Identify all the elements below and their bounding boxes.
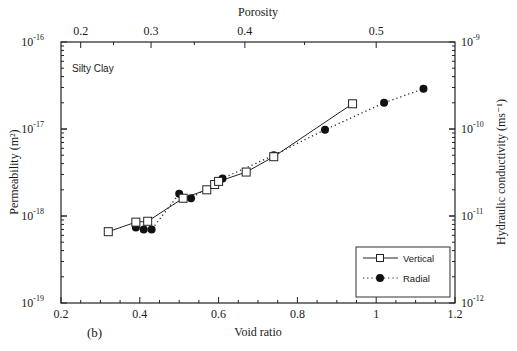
vertical-point — [179, 194, 187, 202]
y2-axis-title: Hydraulic conductivity (ms⁻¹) — [494, 99, 508, 245]
vertical-point — [203, 186, 211, 194]
x-tick-label: 0.4 — [132, 307, 147, 321]
radial-point — [148, 225, 156, 233]
panel-label: (b) — [87, 325, 102, 340]
x-tick-label: 0.2 — [54, 307, 69, 321]
vertical-point — [215, 177, 223, 185]
radial-point — [380, 99, 388, 107]
permeability-chart: 0.20.40.60.811.20.20.30.40.510-1910-1810… — [0, 0, 517, 351]
x-tick-label: 1 — [373, 307, 379, 321]
radial-point — [321, 126, 329, 134]
x-axis-title: Void ratio — [234, 325, 281, 339]
radial-point — [187, 194, 195, 202]
radial-point — [419, 85, 427, 93]
legend-square-marker-icon — [377, 255, 384, 262]
x2-tick-label: 0.2 — [73, 24, 88, 38]
legend-label-vertical: Vertical — [403, 253, 434, 264]
radial-point — [140, 225, 148, 233]
x2-axis-title: Porosity — [238, 5, 278, 19]
x2-tick-label: 0.5 — [369, 24, 384, 38]
annotation-silty-clay: Silty Clay — [72, 63, 114, 74]
vertical-point — [349, 100, 357, 108]
legend-circle-marker-icon — [376, 274, 384, 282]
vertical-point — [242, 168, 250, 176]
x-tick-label: 0.6 — [211, 307, 226, 321]
y-axis-title: Permeability (m²) — [7, 129, 21, 214]
legend-label-radial: Radial — [403, 273, 430, 284]
vertical-point — [144, 217, 152, 225]
x2-tick-label: 0.3 — [144, 24, 159, 38]
x-tick-label: 0.8 — [290, 307, 305, 321]
legend: Vertical Radial — [356, 247, 450, 297]
vertical-point — [132, 218, 140, 226]
x2-tick-label: 0.4 — [237, 24, 252, 38]
vertical-point — [270, 153, 278, 161]
vertical-point — [104, 228, 112, 236]
